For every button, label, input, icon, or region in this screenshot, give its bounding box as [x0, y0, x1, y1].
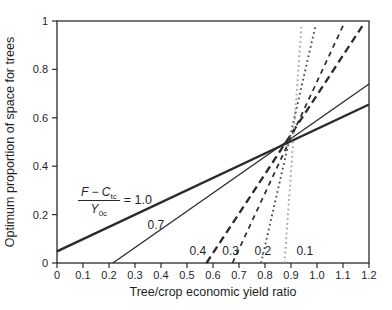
chart-canvas: 00.10.20.30.40.50.60.70.80.91.01.11.200.…: [0, 0, 392, 310]
x-tick-label: 0.3: [127, 269, 142, 281]
x-tick-label: 0.4: [153, 269, 168, 281]
x-tick-label: 0.7: [231, 269, 246, 281]
x-tick-label: 0.8: [257, 269, 272, 281]
line-labels-group: 0.70.40.30.20.1: [147, 218, 313, 258]
plot-border: [57, 21, 369, 263]
x-tick-label: 0.2: [101, 269, 116, 281]
line-label-0.3: 0.3: [222, 244, 239, 258]
series-lines-group: [57, 26, 369, 263]
x-axis-title: Tree/crop economic yield ratio: [130, 285, 297, 299]
line-label-0.1: 0.1: [296, 244, 313, 258]
tick-labels-group: 00.10.20.30.40.50.60.70.80.91.01.11.200.…: [33, 15, 377, 281]
line-label-0.7: 0.7: [147, 218, 164, 232]
line-label-0.2: 0.2: [255, 244, 272, 258]
fraction: F − Ctc Y0c: [78, 186, 120, 215]
x-tick-label: 1.1: [335, 269, 350, 281]
x-tick-label: 0: [54, 269, 60, 281]
y-tick-label: 0.8: [33, 63, 48, 75]
equals-value-label: = 1.0: [124, 194, 152, 207]
chart-figure: 00.10.20.30.40.50.60.70.80.91.01.11.200.…: [0, 0, 392, 310]
x-tick-label: 0.1: [75, 269, 90, 281]
y-tick-label: 1: [42, 15, 48, 27]
parameter-ratio-annotation: F − Ctc Y0c = 1.0: [78, 186, 152, 215]
y-axis-title: Optimum proportion of space for trees: [3, 37, 17, 248]
x-tick-label: 0.6: [205, 269, 220, 281]
fraction-numerator: F − Ctc: [78, 186, 120, 201]
plot-line-0.1: [285, 27, 302, 263]
plot-line-0.2: [261, 27, 315, 263]
y-tick-label: 0.6: [33, 112, 48, 124]
plot-line-1.0: [57, 104, 369, 251]
y-tick-label: 0.4: [33, 160, 48, 172]
x-tick-label: 1.0: [309, 269, 324, 281]
x-tick-label: 0.5: [179, 269, 194, 281]
x-tick-label: 1.2: [361, 269, 376, 281]
fraction-denominator: Y0c: [91, 201, 107, 215]
line-label-0.4: 0.4: [190, 244, 207, 258]
y-tick-label: 0.2: [33, 209, 48, 221]
plot-line-0.7: [113, 84, 369, 263]
x-tick-label: 0.9: [283, 269, 298, 281]
y-tick-label: 0: [42, 257, 48, 269]
